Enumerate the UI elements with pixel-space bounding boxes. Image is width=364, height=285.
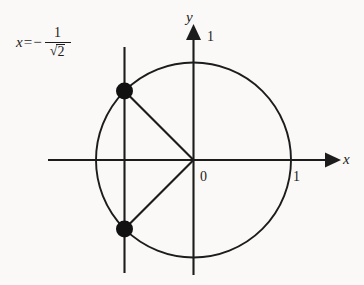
point-marker-lower-intersection bbox=[116, 221, 133, 238]
equation-equals-sign: = bbox=[24, 35, 32, 50]
y-unit-tick-label: 1 bbox=[207, 30, 214, 44]
unit-circle-figure: x = − 1 √ 2 y x 1 1 0 bbox=[0, 0, 364, 285]
point-marker-upper-intersection bbox=[116, 83, 133, 100]
y-axis-arrowhead bbox=[186, 24, 201, 40]
x-axis-label: x bbox=[343, 152, 350, 167]
radicand: 2 bbox=[56, 44, 65, 60]
y-axis-label: y bbox=[186, 10, 193, 25]
fraction-denominator: √ 2 bbox=[47, 43, 69, 60]
equation-minus-sign: − bbox=[33, 35, 41, 50]
equation-fraction: 1 √ 2 bbox=[45, 26, 71, 60]
x-unit-tick-label: 1 bbox=[293, 170, 300, 184]
equation-label: x = − 1 √ 2 bbox=[16, 26, 72, 60]
origin-label: 0 bbox=[200, 170, 207, 184]
fraction-numerator: 1 bbox=[51, 26, 64, 42]
equation-variable: x bbox=[16, 35, 23, 50]
radius-segment-upper bbox=[125, 91, 194, 160]
square-root-expression: √ 2 bbox=[50, 44, 66, 60]
radius-segment-lower bbox=[125, 160, 194, 229]
x-axis-arrowhead bbox=[325, 153, 341, 168]
